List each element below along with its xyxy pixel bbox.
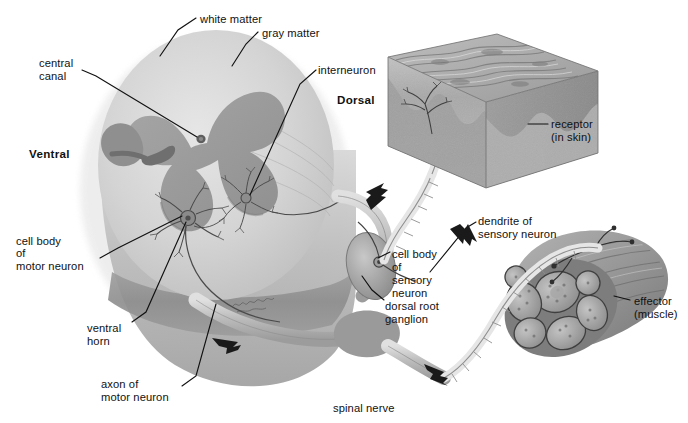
- label-cellbody_sens_4: neuron: [392, 287, 427, 299]
- label-cellbody_sens_2: of: [392, 261, 402, 273]
- label-receptor_2: (in skin): [551, 131, 591, 143]
- label-central_canal_2: canal: [39, 70, 66, 82]
- central-canal: [196, 135, 205, 143]
- label-ventral_horn_1: ventral: [87, 322, 121, 334]
- skin-block: [388, 34, 598, 192]
- label-axon_motor_1: axon of: [101, 378, 138, 390]
- label-drg_2: ganglion: [385, 313, 428, 325]
- label-dendrite_1: dendrite of: [478, 215, 532, 227]
- label-effector_2: (muscle): [634, 308, 678, 320]
- reflex-arc-figure: white mattergray mattercentralcanalinter…: [0, 0, 688, 423]
- label-ventral_horn_2: horn: [87, 335, 110, 347]
- label-white_matter: white matter: [200, 13, 262, 25]
- label-dorsal: Dorsal: [337, 94, 375, 106]
- label-ventral: Ventral: [29, 148, 70, 160]
- label-cellbody_motor_1: cell body: [16, 235, 61, 247]
- label-interneuron: interneuron: [318, 64, 376, 76]
- label-cellbody_motor_3: motor neuron: [16, 260, 84, 272]
- label-cellbody_motor_2: of: [16, 247, 26, 259]
- label-spinal_nerve: spinal nerve: [333, 402, 395, 414]
- label-dendrite_2: sensory neuron: [478, 228, 557, 240]
- label-cellbody_sens_1: cell body: [392, 248, 437, 260]
- label-central_canal_1: central: [39, 57, 73, 69]
- arrow-sensory-up: [366, 183, 388, 210]
- label-drg_1: dorsal root: [385, 300, 439, 312]
- label-cellbody_sens_3: sensory: [392, 274, 432, 286]
- label-gray_matter: gray matter: [262, 27, 320, 39]
- label-axon_motor_2: motor neuron: [101, 391, 169, 403]
- label-receptor_1: receptor: [551, 118, 593, 130]
- label-effector_1: effector: [634, 295, 672, 307]
